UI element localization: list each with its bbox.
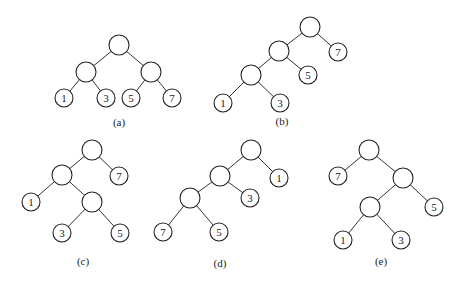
tree-edge xyxy=(99,157,112,170)
leaf-label: 7 xyxy=(169,92,175,104)
leaf-label: 1 xyxy=(220,97,226,109)
tree-edge xyxy=(136,80,144,91)
internal-node xyxy=(82,192,102,212)
tree-d: 1375(d) xyxy=(154,140,288,270)
tree-edge xyxy=(345,156,361,170)
tree-edge xyxy=(127,51,144,65)
leaf-label: 5 xyxy=(305,69,311,81)
leaf-label: 1 xyxy=(276,172,282,184)
leaf-label: 5 xyxy=(216,226,222,238)
tree-caption: (c) xyxy=(77,255,90,268)
internal-node xyxy=(300,17,320,37)
tree-edge xyxy=(196,206,213,226)
internal-node xyxy=(82,140,102,160)
internal-node xyxy=(141,62,161,82)
leaf-label: 5 xyxy=(431,201,437,213)
tree-b: 7513(b) xyxy=(214,17,347,128)
tree-edge xyxy=(99,209,114,226)
leaf-label: 7 xyxy=(335,170,341,182)
binary-trees-figure: 1357(a)7513(b)7135(c)1375(d)7513(e) xyxy=(0,0,462,286)
leaf-label: 3 xyxy=(59,227,65,239)
internal-node xyxy=(241,140,261,160)
leaf-label: 3 xyxy=(247,192,253,204)
internal-node xyxy=(76,62,96,82)
leaf-label: 3 xyxy=(277,97,283,109)
internal-node xyxy=(52,165,72,185)
tree-edge xyxy=(198,182,212,192)
tree-e: 7513(e) xyxy=(329,140,443,268)
tree-edge xyxy=(157,80,166,91)
tree-edge xyxy=(258,157,273,172)
tree-edge xyxy=(229,82,244,97)
tree-edge xyxy=(169,206,184,225)
tree-caption: (e) xyxy=(375,255,388,268)
tree-edge xyxy=(68,209,85,226)
tree-edge xyxy=(92,80,100,91)
tree-edge xyxy=(317,34,331,46)
internal-node xyxy=(210,166,230,186)
tree-edge xyxy=(378,185,396,201)
leaf-label: 7 xyxy=(116,170,122,182)
tree-edge xyxy=(410,185,427,201)
tree-edge xyxy=(69,182,84,196)
internal-node xyxy=(393,168,413,188)
tree-caption: (a) xyxy=(113,116,126,129)
leaf-label: 3 xyxy=(398,234,404,246)
tree-edge xyxy=(70,156,85,168)
internal-node xyxy=(109,35,129,55)
tree-caption: (b) xyxy=(276,115,289,128)
tree-edge xyxy=(287,57,301,69)
tree-edge xyxy=(377,214,395,233)
leaf-label: 5 xyxy=(117,227,123,239)
tree-edge xyxy=(228,182,243,193)
tree-edge xyxy=(258,82,273,97)
tree-edge xyxy=(228,156,244,169)
tree-edge xyxy=(349,215,364,233)
internal-node xyxy=(180,188,200,208)
internal-node xyxy=(241,65,261,85)
leaf-label: 5 xyxy=(128,92,134,104)
tree-edge xyxy=(287,33,302,45)
internal-node xyxy=(269,41,289,61)
tree-a: 1357(a) xyxy=(55,35,181,129)
leaf-label: 7 xyxy=(160,226,166,238)
tree-edge xyxy=(38,182,55,197)
internal-node xyxy=(359,140,379,160)
tree-edge xyxy=(377,156,396,171)
leaf-label: 1 xyxy=(61,92,67,104)
tree-edge xyxy=(259,58,272,69)
tree-c: 7135(c) xyxy=(22,140,129,268)
internal-node xyxy=(360,197,380,217)
tree-caption: (d) xyxy=(214,257,227,270)
leaf-label: 7 xyxy=(335,46,341,58)
leaf-label: 1 xyxy=(28,196,34,208)
leaf-label: 3 xyxy=(103,92,109,104)
leaf-label: 1 xyxy=(340,234,346,246)
tree-edge xyxy=(70,80,80,91)
tree-edge xyxy=(94,51,112,65)
